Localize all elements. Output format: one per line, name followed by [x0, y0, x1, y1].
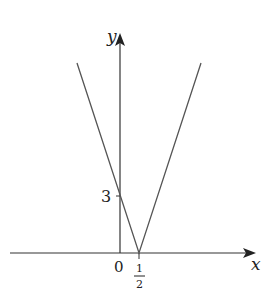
origin-label: 0 — [114, 258, 124, 276]
y-tick-label: 3 — [101, 187, 111, 206]
y-axis-label: y — [106, 26, 117, 46]
x-axis-label: x — [251, 254, 261, 274]
graph: y x 3 0 1 2 — [0, 0, 266, 304]
abs-function-curve — [77, 63, 201, 253]
x-tick-denominator: 2 — [136, 278, 143, 291]
x-tick-numerator: 1 — [136, 262, 143, 275]
